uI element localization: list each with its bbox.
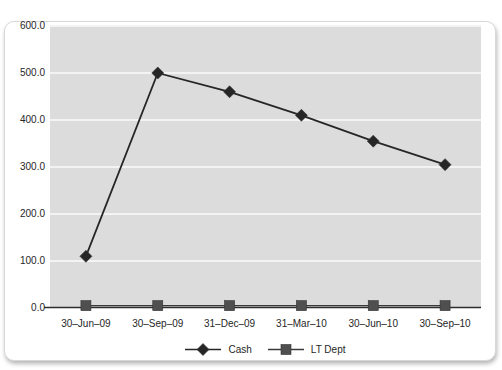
y-axis-tick-label: 200.0 xyxy=(0,208,45,220)
diamond-marker xyxy=(367,135,379,147)
legend: CashLT Dept xyxy=(50,341,481,358)
series-layer xyxy=(50,26,481,308)
square-marker xyxy=(153,301,163,311)
cash-series xyxy=(80,67,451,262)
square-marker xyxy=(81,301,91,311)
square-marker xyxy=(296,301,306,311)
chart-figure: 0.0100.0200.0300.0400.0500.0600.0 30–Jun… xyxy=(0,0,502,370)
diamond-legend-icon xyxy=(185,342,221,357)
x-axis-tick-label: 30–Sep–10 xyxy=(409,317,481,330)
x-axis-tick-label: 31–Mar–10 xyxy=(266,317,338,330)
y-axis-tick-label: 400.0 xyxy=(0,114,45,126)
square-marker xyxy=(440,301,450,311)
legend-label: Cash xyxy=(228,343,251,357)
x-axis-tick-label: 31–Dec–09 xyxy=(194,317,266,330)
x-axis-tick-label: 30–Jun–09 xyxy=(50,317,122,330)
square-marker xyxy=(281,345,291,355)
diamond-marker xyxy=(224,86,236,98)
square-marker xyxy=(368,301,378,311)
series-line xyxy=(86,73,445,256)
y-axis-tick-label: 600.0 xyxy=(0,20,45,32)
diamond-marker xyxy=(80,250,92,262)
x-axis-tick-label: 30–Sep–09 xyxy=(122,317,194,330)
diamond-marker xyxy=(295,109,307,121)
y-axis-tick-label: 0.0 xyxy=(0,302,45,314)
y-axis-tick-label: 500.0 xyxy=(0,67,45,79)
square-marker xyxy=(225,301,235,311)
x-axis-tick-label: 30–Jun–10 xyxy=(337,317,409,330)
legend-item-cash: Cash xyxy=(185,342,251,357)
legend-label: LT Dept xyxy=(311,343,346,357)
diamond-marker xyxy=(439,159,451,171)
diamond-marker xyxy=(152,67,164,79)
diamond-marker xyxy=(197,344,209,356)
square-legend-icon xyxy=(268,342,304,357)
y-axis-tick-label: 100.0 xyxy=(0,255,45,267)
y-axis-tick-label: 300.0 xyxy=(0,161,45,173)
legend-item-lt-dept: LT Dept xyxy=(268,342,346,357)
